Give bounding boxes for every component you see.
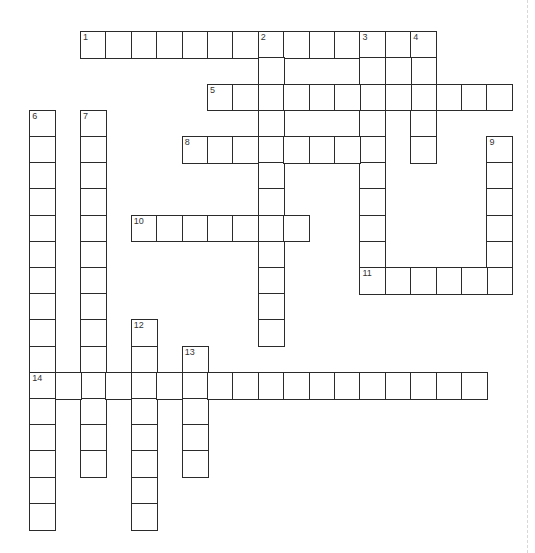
crossword-cell[interactable]	[80, 319, 107, 347]
crossword-cell[interactable]: 3	[359, 31, 386, 59]
crossword-cell[interactable]	[334, 84, 361, 112]
crossword-cell[interactable]	[207, 31, 234, 59]
crossword-cell[interactable]	[29, 136, 56, 164]
crossword-cell[interactable]	[232, 215, 259, 243]
crossword-cell[interactable]	[207, 136, 234, 164]
crossword-cell[interactable]	[80, 346, 107, 374]
crossword-cell[interactable]	[385, 372, 412, 400]
crossword-cell[interactable]	[80, 424, 107, 452]
crossword-cell[interactable]	[80, 241, 107, 269]
crossword-cell[interactable]	[131, 398, 158, 426]
crossword-cell[interactable]	[29, 503, 56, 531]
crossword-cell[interactable]	[29, 293, 56, 321]
crossword-cell[interactable]	[385, 267, 412, 295]
crossword-cell[interactable]	[359, 57, 386, 85]
crossword-cell[interactable]	[461, 84, 488, 112]
crossword-cell[interactable]	[486, 215, 513, 243]
crossword-cell[interactable]: 11	[359, 267, 386, 295]
crossword-cell[interactable]: 1	[80, 31, 107, 59]
crossword-cell[interactable]	[29, 346, 56, 374]
crossword-cell[interactable]	[29, 188, 56, 216]
crossword-cell[interactable]	[334, 136, 361, 164]
crossword-cell[interactable]	[385, 84, 412, 112]
crossword-cell[interactable]: 5	[207, 84, 234, 112]
crossword-cell[interactable]	[105, 31, 132, 59]
crossword-cell[interactable]	[131, 424, 158, 452]
crossword-cell[interactable]	[258, 136, 285, 164]
crossword-cell[interactable]	[207, 372, 234, 400]
crossword-cell[interactable]	[258, 162, 285, 190]
crossword-cell[interactable]	[55, 372, 82, 400]
crossword-cell[interactable]	[182, 424, 209, 452]
crossword-cell[interactable]	[182, 31, 209, 59]
crossword-cell[interactable]	[232, 136, 259, 164]
crossword-cell[interactable]	[309, 31, 336, 59]
crossword-cell[interactable]	[283, 84, 310, 112]
crossword-cell[interactable]	[359, 136, 386, 164]
crossword-cell[interactable]	[436, 372, 463, 400]
crossword-cell[interactable]	[80, 188, 107, 216]
crossword-cell[interactable]	[283, 136, 310, 164]
crossword-cell[interactable]: 7	[80, 110, 107, 138]
crossword-cell[interactable]	[131, 372, 158, 400]
crossword-cell[interactable]	[182, 450, 209, 478]
crossword-cell[interactable]	[232, 372, 259, 400]
crossword-cell[interactable]	[80, 450, 107, 478]
crossword-cell[interactable]	[258, 188, 285, 216]
crossword-cell[interactable]	[29, 424, 56, 452]
crossword-cell[interactable]	[182, 372, 209, 400]
crossword-cell[interactable]	[207, 215, 234, 243]
crossword-cell[interactable]	[258, 57, 285, 85]
crossword-cell[interactable]	[258, 110, 285, 138]
crossword-cell[interactable]	[359, 188, 386, 216]
crossword-cell[interactable]	[80, 372, 107, 400]
crossword-cell[interactable]	[309, 136, 336, 164]
crossword-cell[interactable]	[410, 136, 437, 164]
crossword-cell[interactable]: 10	[131, 215, 158, 243]
crossword-cell[interactable]: 6	[29, 110, 56, 138]
crossword-cell[interactable]	[80, 136, 107, 164]
crossword-cell[interactable]	[258, 267, 285, 295]
crossword-cell[interactable]	[29, 450, 56, 478]
crossword-cell[interactable]	[283, 31, 310, 59]
crossword-cell[interactable]	[232, 84, 259, 112]
crossword-cell[interactable]	[80, 267, 107, 295]
crossword-cell[interactable]	[385, 57, 412, 85]
crossword-cell[interactable]	[283, 215, 310, 243]
crossword-cell[interactable]: 13	[182, 346, 209, 374]
crossword-cell[interactable]	[410, 84, 437, 112]
crossword-cell[interactable]	[309, 84, 336, 112]
crossword-cell[interactable]	[359, 162, 386, 190]
crossword-cell[interactable]	[410, 372, 437, 400]
crossword-cell[interactable]	[29, 162, 56, 190]
crossword-cell[interactable]	[258, 372, 285, 400]
crossword-cell[interactable]	[461, 372, 488, 400]
crossword-cell[interactable]	[385, 31, 412, 59]
crossword-cell[interactable]	[334, 372, 361, 400]
crossword-cell[interactable]	[334, 31, 361, 59]
crossword-cell[interactable]	[258, 241, 285, 269]
crossword-cell[interactable]	[182, 215, 209, 243]
crossword-cell[interactable]	[309, 372, 336, 400]
crossword-cell[interactable]	[283, 372, 310, 400]
crossword-cell[interactable]: 9	[486, 136, 513, 164]
crossword-cell[interactable]	[359, 110, 386, 138]
crossword-cell[interactable]	[486, 84, 513, 112]
crossword-cell[interactable]	[359, 372, 386, 400]
crossword-cell[interactable]	[436, 84, 463, 112]
crossword-cell[interactable]	[410, 267, 437, 295]
crossword-cell[interactable]: 14	[29, 372, 56, 400]
crossword-cell[interactable]	[359, 84, 386, 112]
crossword-cell[interactable]: 2	[258, 31, 285, 59]
crossword-cell[interactable]	[232, 31, 259, 59]
crossword-cell[interactable]	[105, 372, 132, 400]
crossword-cell[interactable]: 4	[410, 31, 437, 59]
crossword-cell[interactable]	[359, 241, 386, 269]
crossword-cell[interactable]	[486, 241, 513, 269]
crossword-cell[interactable]	[156, 215, 183, 243]
crossword-cell[interactable]	[29, 398, 56, 426]
crossword-cell[interactable]	[131, 31, 158, 59]
crossword-cell[interactable]	[80, 293, 107, 321]
crossword-cell[interactable]	[80, 215, 107, 243]
crossword-cell[interactable]	[131, 450, 158, 478]
